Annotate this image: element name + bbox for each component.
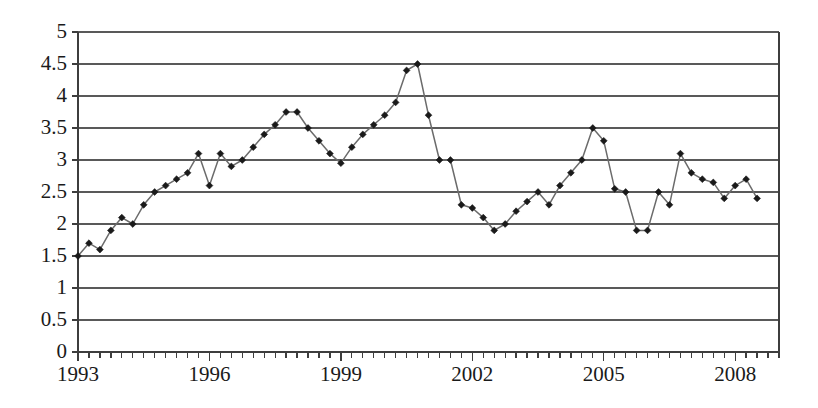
data-point-marker: [458, 201, 465, 208]
data-point-marker: [688, 169, 695, 176]
data-point-marker: [129, 221, 136, 228]
data-point-marker: [436, 157, 443, 164]
y-tick-label: 5: [57, 19, 68, 43]
data-point-marker: [633, 227, 640, 234]
data-point-marker: [162, 182, 169, 189]
y-tick-label: 4.5: [41, 51, 67, 75]
data-point-marker: [622, 189, 629, 196]
data-point-marker: [206, 182, 213, 189]
data-point-marker: [677, 150, 684, 157]
data-point-marker: [447, 157, 454, 164]
data-point-marker: [195, 150, 202, 157]
x-axis-tick-labels: 199319961999200220052008: [57, 362, 756, 386]
x-tick-label: 1999: [320, 362, 362, 386]
y-tick-label: 1.5: [41, 243, 67, 267]
data-point-marker: [184, 169, 191, 176]
y-tick-label: 0.5: [41, 307, 67, 331]
y-axis-tick-labels: 00.511.522.533.544.55: [41, 19, 78, 363]
data-point-marker: [414, 61, 421, 68]
x-axis-ticks: [78, 352, 779, 361]
y-tick-label: 2: [57, 211, 68, 235]
y-tick-label: 1: [57, 275, 68, 299]
data-point-marker: [403, 67, 410, 74]
chart-canvas: 00.511.522.533.544.55 199319961999200220…: [0, 0, 818, 408]
x-tick-label: 2005: [583, 362, 625, 386]
data-point-marker: [425, 112, 432, 119]
y-tick-label: 4: [57, 83, 68, 107]
data-point-marker: [611, 185, 618, 192]
x-tick-label: 1996: [188, 362, 230, 386]
y-tick-label: 3.5: [41, 115, 67, 139]
data-point-marker: [97, 246, 104, 253]
data-point-marker: [644, 227, 651, 234]
y-tick-label: 3: [57, 147, 68, 171]
y-tick-label: 0: [57, 339, 68, 363]
data-point-marker: [173, 176, 180, 183]
data-point-marker: [699, 176, 706, 183]
y-tick-label: 2.5: [41, 179, 67, 203]
data-point-marker: [743, 176, 750, 183]
x-tick-label: 1993: [57, 362, 99, 386]
x-tick-label: 2008: [714, 362, 756, 386]
x-tick-label: 2002: [451, 362, 493, 386]
line-chart: 00.511.522.533.544.55 199319961999200220…: [0, 0, 818, 408]
data-point-marker: [754, 195, 761, 202]
